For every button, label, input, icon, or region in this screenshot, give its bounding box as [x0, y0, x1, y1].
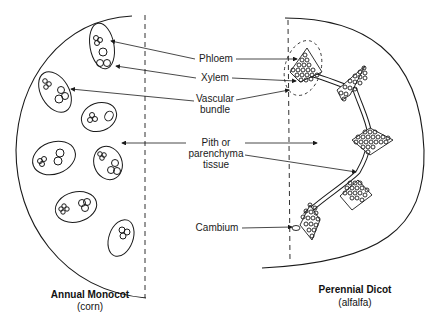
label-phloem: Phloem — [197, 53, 235, 64]
dicot-caption-title: Perennial Dicot — [305, 284, 405, 296]
label-pith-line2: parenchyma — [186, 148, 246, 159]
label-pith-line3: tissue — [186, 159, 246, 170]
monocot-stem-outline — [16, 15, 146, 298]
label-pith-line1: Pith or — [186, 137, 246, 148]
monocot-vascular-bundles — [28, 21, 139, 260]
monocot-caption-subtitle: (corn) — [40, 301, 140, 313]
label-vascular-bundle-line2: bundle — [194, 104, 236, 115]
label-xylem: Xylem — [198, 72, 232, 83]
monocot-caption-title: Annual Monocot — [40, 289, 140, 301]
dicot-caption-subtitle: (alfalfa) — [305, 297, 405, 309]
label-vascular-bundle-line1: Vascular — [194, 93, 236, 104]
label-cambium: Cambium — [194, 222, 240, 233]
